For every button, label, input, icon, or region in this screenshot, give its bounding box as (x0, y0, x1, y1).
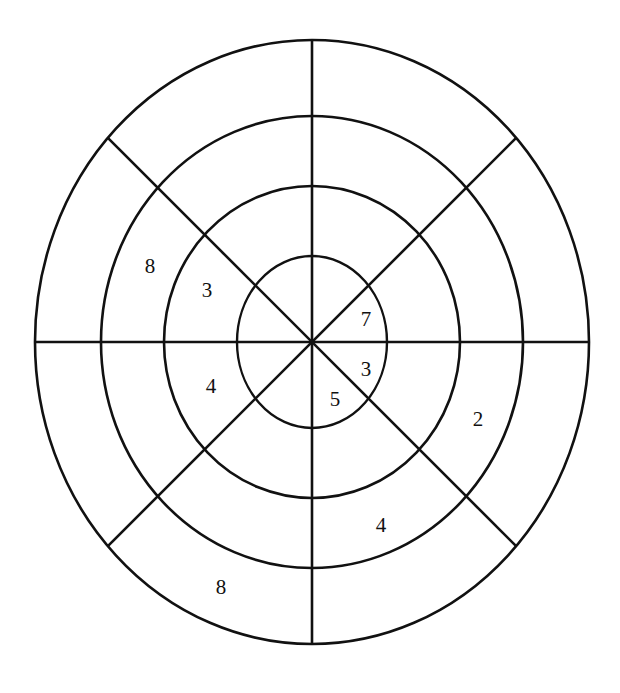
sector-value-8-upper-left: 8 (145, 254, 156, 278)
sector-value-4-lower-right: 4 (376, 513, 387, 537)
sector-value-5-inner-bottom: 5 (330, 387, 341, 411)
sector-value-4-lower-left: 4 (206, 374, 217, 398)
diagram-canvas: 837435248 (0, 0, 620, 693)
sector-value-3-upper-left: 3 (202, 278, 213, 302)
concentric-circle-sector-diagram: 837435248 (0, 0, 620, 693)
sector-value-2-lower-right: 2 (473, 407, 484, 431)
sector-value-8-bottom-left: 8 (216, 575, 227, 599)
background-rect (0, 0, 620, 693)
sector-value-3-inner-lower-right: 3 (361, 357, 372, 381)
sector-value-7-inner-upper-right: 7 (361, 307, 372, 331)
